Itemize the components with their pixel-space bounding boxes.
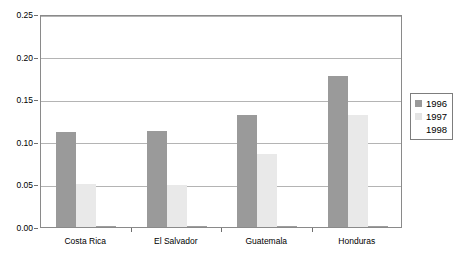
- x-tick-mark: [131, 228, 132, 232]
- bar-1996: [237, 115, 257, 227]
- bar-1997: [167, 185, 187, 227]
- y-tick-label: 0.00: [16, 224, 33, 233]
- legend-label: 1998: [426, 125, 447, 135]
- y-tick-label: 0.20: [16, 53, 33, 62]
- y-tick-mark: [34, 185, 38, 186]
- legend-item-1998[interactable]: 1998: [415, 123, 447, 136]
- y-tick-mark: [34, 228, 38, 229]
- y-tick-mark: [34, 15, 38, 16]
- y-tick-label: 0.25: [16, 11, 33, 20]
- plot-area: [40, 15, 402, 228]
- legend-item-1997[interactable]: 1997: [415, 110, 447, 123]
- bar-group: [237, 16, 297, 227]
- legend-swatch-1996-icon: [415, 100, 422, 107]
- bar-1998: [277, 226, 297, 227]
- x-category-label: Guatemala: [245, 237, 287, 246]
- bar-1996: [328, 76, 348, 227]
- legend-label: 1996: [426, 99, 447, 109]
- x-category-label: El Salvador: [154, 237, 197, 246]
- legend: 199619971998: [410, 93, 453, 140]
- bar-group: [56, 16, 116, 227]
- bar-group: [147, 16, 207, 227]
- x-tick-mark: [221, 228, 222, 232]
- bar-chart: 0.000.050.100.150.200.25 Costa RicaEl Sa…: [0, 0, 469, 260]
- y-tick-mark: [34, 58, 38, 59]
- x-axis: Costa RicaEl SalvadorGuatemalaHonduras: [40, 228, 402, 260]
- x-category-label: Costa Rica: [64, 237, 106, 246]
- y-tick-mark: [34, 100, 38, 101]
- y-tick-label: 0.15: [16, 96, 33, 105]
- legend-swatch-1997-icon: [415, 113, 422, 120]
- y-tick-label: 0.10: [16, 139, 33, 148]
- bar-1996: [56, 132, 76, 227]
- y-axis: 0.000.050.100.150.200.25: [0, 0, 40, 260]
- bar-1998: [187, 226, 207, 227]
- y-tick-label: 0.05: [16, 181, 33, 190]
- bar-1997: [257, 154, 277, 227]
- bars-layer: [41, 16, 401, 227]
- bar-1998: [368, 226, 388, 227]
- legend-swatch-1998-icon: [415, 126, 422, 133]
- bar-1998: [96, 226, 116, 227]
- x-category-label: Honduras: [338, 237, 375, 246]
- bar-1997: [76, 184, 96, 227]
- bar-1996: [147, 131, 167, 227]
- legend-label: 1997: [426, 112, 447, 122]
- bar-group: [328, 16, 388, 227]
- x-tick-mark: [312, 228, 313, 232]
- bar-1997: [348, 115, 368, 227]
- legend-item-1996[interactable]: 1996: [415, 97, 447, 110]
- y-tick-mark: [34, 143, 38, 144]
